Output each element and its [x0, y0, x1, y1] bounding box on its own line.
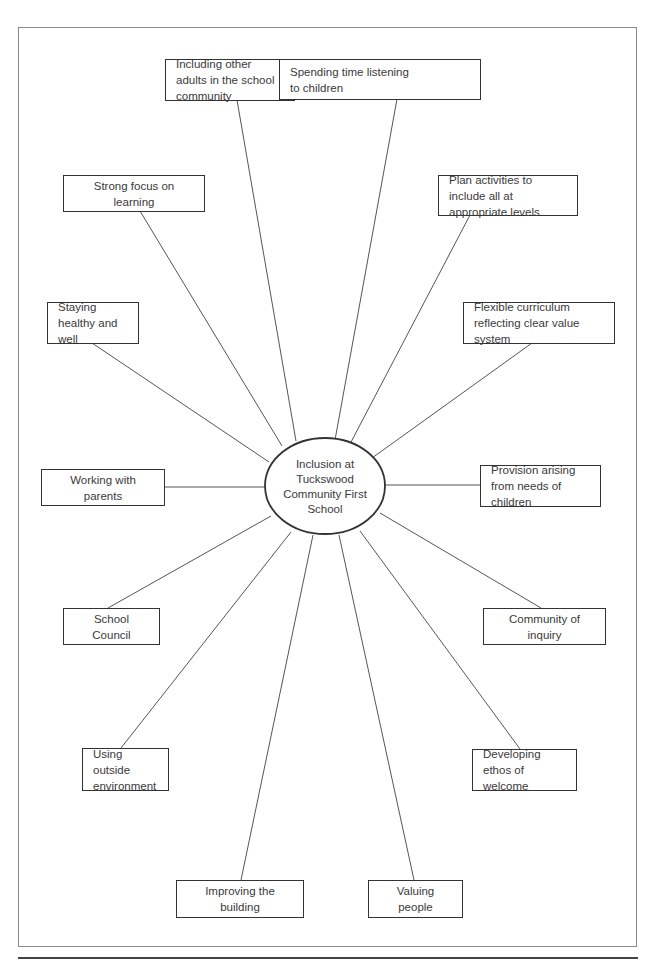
node-school-council: School Council: [63, 608, 160, 645]
node-plan-activities: Plan activities to include all at approp…: [438, 175, 578, 216]
central-topic-label: Inclusion at Tuckswood Community First S…: [270, 457, 380, 517]
node-provision: Provision arising from needs of children: [480, 465, 601, 507]
node-label: Staying healthy and well: [58, 299, 128, 347]
node-label: Spending time listening to children: [290, 64, 420, 96]
node-including-adults: Including other adults in the school com…: [165, 59, 295, 101]
node-label: Including other adults in the school com…: [176, 56, 284, 104]
central-topic: Inclusion at Tuckswood Community First S…: [265, 438, 385, 535]
node-label: Valuing people: [379, 883, 452, 915]
node-valuing: Valuing people: [368, 880, 463, 918]
bottom-rule: [18, 957, 638, 959]
node-outside: Using outside environment: [82, 748, 169, 791]
node-focus-learning: Strong focus on learning: [63, 175, 205, 212]
node-label: Flexible curriculum reflecting clear val…: [474, 299, 604, 347]
node-label: Working with parents: [52, 472, 154, 504]
node-ethos: Developing ethos of welcome: [472, 749, 577, 791]
node-inquiry: Community of inquiry: [483, 608, 606, 645]
node-flexible-curriculum: Flexible curriculum reflecting clear val…: [463, 302, 615, 344]
node-label: Plan activities to include all at approp…: [449, 172, 567, 220]
node-healthy: Staying healthy and well: [47, 302, 139, 344]
node-label: Using outside environment: [93, 746, 158, 794]
node-label: Community of inquiry: [494, 611, 595, 643]
node-label: Improving the building: [187, 883, 293, 915]
node-label: School Council: [74, 611, 149, 643]
node-label: Developing ethos of welcome: [483, 746, 566, 794]
node-parents: Working with parents: [41, 469, 165, 506]
node-label: Provision arising from needs of children: [491, 462, 590, 510]
node-listening: Spending time listening to children: [279, 59, 481, 100]
node-building: Improving the building: [176, 880, 304, 918]
node-label: Strong focus on learning: [74, 178, 194, 210]
